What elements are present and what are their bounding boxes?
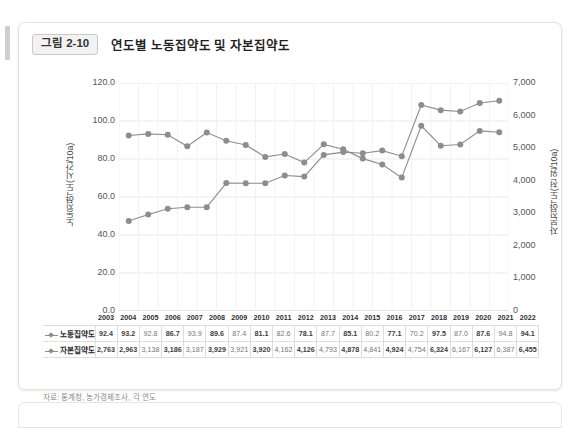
data-point-marker bbox=[165, 132, 171, 138]
data-point-marker bbox=[496, 129, 502, 135]
table-cell-value: 81.1 bbox=[250, 326, 272, 342]
left-tick-label: 40.0 bbox=[97, 229, 115, 239]
data-point-marker bbox=[184, 204, 190, 210]
column-header-year: 2021 bbox=[494, 311, 516, 326]
data-point-marker bbox=[438, 143, 444, 149]
table-cell-value: 6,127 bbox=[472, 342, 494, 358]
data-point-marker bbox=[418, 102, 424, 108]
data-point-marker bbox=[477, 100, 483, 106]
data-table-wrap: 2003200420052006200720082009201020112012… bbox=[43, 311, 539, 358]
data-point-marker bbox=[126, 218, 132, 224]
data-point-marker bbox=[321, 152, 327, 158]
table-cell-value: 97.5 bbox=[428, 326, 450, 342]
table-header-row: 2003200420052006200720082009201020112012… bbox=[43, 311, 539, 326]
left-axis-title: 노동집약도(시간/10a) bbox=[63, 143, 76, 227]
column-header-year: 2020 bbox=[472, 311, 494, 326]
table-cell-value: 4,924 bbox=[383, 342, 405, 358]
data-table-head: 2003200420052006200720082009201020112012… bbox=[43, 311, 539, 326]
data-table-body: 노동집약도92.493.292.886.793.989.687.481.182.… bbox=[43, 326, 539, 358]
column-header-year: 2019 bbox=[450, 311, 472, 326]
chart-area: 노동집약도(시간/10a) 자본집약도(천 원/10a) 0.020.040.0… bbox=[19, 67, 563, 325]
column-header-year: 2022 bbox=[517, 311, 539, 326]
table-cell-value: 4,162 bbox=[273, 342, 295, 358]
data-point-marker bbox=[418, 123, 424, 129]
column-header-year: 2006 bbox=[162, 311, 184, 326]
data-point-marker bbox=[399, 153, 405, 159]
right-axis-title: 자본집약도(천 원/10a) bbox=[547, 149, 560, 235]
table-cell-value: 92.8 bbox=[139, 326, 161, 342]
right-tick-label: 4,000 bbox=[513, 175, 536, 185]
data-point-marker bbox=[360, 156, 366, 162]
table-cell-value: 3,186 bbox=[162, 342, 184, 358]
data-point-marker bbox=[496, 98, 502, 104]
table-cell-value: 4,793 bbox=[317, 342, 339, 358]
table-cell-value: 4,754 bbox=[406, 342, 428, 358]
left-tick-label: 60.0 bbox=[97, 191, 115, 201]
figure-title: 연도별 노동집약도 및 자본집약도 bbox=[111, 35, 289, 54]
table-cell-value: 3,920 bbox=[250, 342, 272, 358]
left-tick-label: 80.0 bbox=[97, 153, 115, 163]
data-point-marker bbox=[301, 174, 307, 180]
data-point-marker bbox=[360, 150, 366, 156]
table-cell-value: 87.0 bbox=[450, 326, 472, 342]
data-point-marker bbox=[145, 211, 151, 217]
right-tick-label: 5,000 bbox=[513, 142, 536, 152]
data-point-marker bbox=[262, 180, 268, 186]
table-cell-value: 6,455 bbox=[517, 342, 539, 358]
data-point-marker bbox=[379, 162, 385, 168]
column-header-year: 2010 bbox=[250, 311, 272, 326]
table-cell-value: 2,763 bbox=[95, 342, 117, 358]
data-point-marker bbox=[399, 175, 405, 181]
column-header-year: 2007 bbox=[184, 311, 206, 326]
data-point-marker bbox=[438, 107, 444, 113]
table-cell-value: 82.6 bbox=[273, 326, 295, 342]
table-cell-value: 6,387 bbox=[494, 342, 516, 358]
table-cell-value: 92.4 bbox=[95, 326, 117, 342]
source-note: 자료: 통계청, 농가경제조사, 각 연도 bbox=[43, 391, 156, 402]
legend-marker-icon bbox=[45, 348, 58, 355]
figure-card: 그림 2-10 연도별 노동집약도 및 자본집약도 노동집약도(시간/10a) … bbox=[18, 22, 562, 390]
table-cell-value: 87.7 bbox=[317, 326, 339, 342]
table-cell-value: 78.1 bbox=[295, 326, 317, 342]
data-point-marker bbox=[340, 149, 346, 155]
data-point-marker bbox=[321, 141, 327, 147]
data-point-marker bbox=[223, 138, 229, 144]
table-cell-value: 87.4 bbox=[228, 326, 250, 342]
legend-marker-icon bbox=[45, 332, 58, 339]
data-point-marker bbox=[165, 206, 171, 212]
column-header-year: 2003 bbox=[95, 311, 117, 326]
column-header-year: 2008 bbox=[206, 311, 228, 326]
table-cell-value: 70.2 bbox=[406, 326, 428, 342]
data-point-marker bbox=[282, 151, 288, 157]
data-point-marker bbox=[477, 128, 483, 134]
column-header-year: 2018 bbox=[428, 311, 450, 326]
data-point-marker bbox=[204, 204, 210, 210]
table-cell-value: 86.7 bbox=[162, 326, 184, 342]
data-point-marker bbox=[243, 142, 249, 148]
left-tick-label: 100.0 bbox=[92, 115, 115, 125]
next-card-edge bbox=[18, 402, 562, 428]
table-cell-value: 80.2 bbox=[361, 326, 383, 342]
column-header-year: 2013 bbox=[317, 311, 339, 326]
figure-number-badge: 그림 2-10 bbox=[32, 34, 98, 55]
data-table: 2003200420052006200720082009201020112012… bbox=[43, 311, 539, 358]
table-cell-value: 85.1 bbox=[339, 326, 361, 342]
column-header-year: 2009 bbox=[228, 311, 250, 326]
table-cell-value: 94.8 bbox=[494, 326, 516, 342]
table-cell-value: 4,126 bbox=[295, 342, 317, 358]
data-point-marker bbox=[379, 148, 385, 154]
plot-canvas bbox=[119, 83, 509, 311]
right-tick-label: 1,000 bbox=[513, 272, 536, 282]
column-header-year: 2012 bbox=[295, 311, 317, 326]
table-cell-value: 6,167 bbox=[450, 342, 472, 358]
right-tick-label: 3,000 bbox=[513, 207, 536, 217]
data-point-marker bbox=[145, 131, 151, 137]
data-point-marker bbox=[457, 142, 463, 148]
column-header-year: 2016 bbox=[383, 311, 405, 326]
column-header-year: 2014 bbox=[339, 311, 361, 326]
table-cell-value: 94.1 bbox=[517, 326, 539, 342]
data-point-marker bbox=[223, 180, 229, 186]
table-cell-value: 93.9 bbox=[184, 326, 206, 342]
left-tick-label: 20.0 bbox=[97, 267, 115, 277]
data-point-marker bbox=[243, 180, 249, 186]
